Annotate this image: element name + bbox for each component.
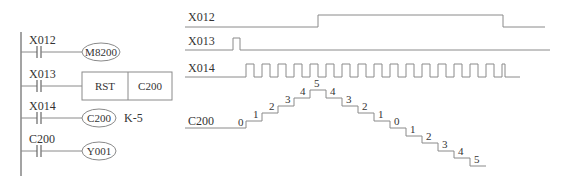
- c200-value: 4: [458, 145, 464, 157]
- contact-label: X012: [29, 33, 56, 47]
- contact-label: X013: [29, 67, 56, 81]
- c200-value: 1: [378, 108, 384, 120]
- c200-value: 1: [253, 108, 259, 120]
- contact-label: C200: [29, 132, 55, 146]
- rung-4: C200 Y001: [21, 132, 116, 160]
- c200-value: 5: [474, 153, 480, 165]
- c200-value: 0: [394, 115, 400, 127]
- counter-setting: K-5: [124, 111, 143, 125]
- c200-value: 3: [442, 138, 448, 150]
- rung-3: X014 C200 K-5: [21, 99, 143, 127]
- operand-label: C200: [138, 80, 162, 92]
- rung-1: X012 M8200: [21, 33, 120, 61]
- coil-label: C200: [87, 112, 111, 124]
- signal-label-x013: X013: [188, 34, 215, 48]
- waveform-x012: [185, 15, 545, 27]
- rung-2: X013 RST C200: [21, 67, 172, 100]
- c200-value: 3: [285, 93, 291, 105]
- c200-value: 4: [330, 85, 336, 97]
- c200-value: 3: [346, 93, 352, 105]
- c200-value: 4: [300, 85, 306, 97]
- plc-ladder-and-timing-diagram: X012 M8200 X013 RST C200 X014: [0, 0, 568, 182]
- waveform-x014: [185, 64, 520, 77]
- signal-label-x014: X014: [188, 61, 215, 75]
- waveform-c200-staircase: [185, 90, 486, 166]
- c200-value-labels: 0 1 2 3 4 5 4 3 2 1 0 1 2 3 4 5: [238, 77, 480, 165]
- c200-value: 1: [410, 123, 416, 135]
- contact-label: X014: [29, 99, 56, 113]
- coil-label: M8200: [85, 46, 117, 58]
- ladder-diagram: X012 M8200 X013 RST C200 X014: [21, 32, 172, 176]
- c200-value: 2: [426, 130, 432, 142]
- coil-label: Y001: [87, 145, 111, 157]
- c200-value: 0: [238, 116, 244, 128]
- instruction-label: RST: [95, 80, 115, 92]
- signal-label-c200: C200: [188, 114, 214, 128]
- signal-label-x012: X012: [188, 10, 215, 24]
- timing-diagram: X012 X013 X014 C200 0 1 2 3 4 5 4 3 2 1 …: [185, 10, 550, 166]
- c200-value: 2: [269, 100, 275, 112]
- waveform-x013: [185, 38, 550, 50]
- c200-value: 5: [314, 77, 320, 89]
- c200-value: 2: [362, 100, 368, 112]
